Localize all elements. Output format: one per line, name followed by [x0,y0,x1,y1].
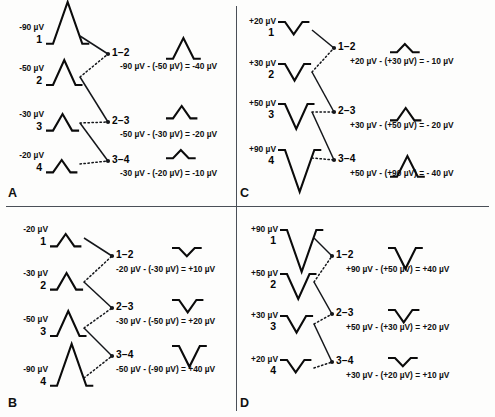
channel-amplitude-a-1: -90 µV [19,22,44,32]
derivation-equation-b-2: -30 µV - (-50 µV) = +20 µV [116,316,215,326]
derivation-waveform-b-2 [168,296,207,316]
derivation-label-d-3: 3–4 [336,355,354,366]
derivation-waveform-b-1 [168,244,206,260]
channel-waveform-c-1 [274,18,313,38]
derivation-label-a-1: 1–2 [112,47,130,58]
derivation-waveform-d-2 [384,306,423,326]
derivation-equation-a-2: -50 µV - (-30 µV) = -20 µV [120,129,217,139]
channel-amplitude-d-4: +20 µV [251,354,278,364]
connector-c-3 [309,109,337,163]
derivation-label-b-3: 3–4 [116,349,134,360]
derivation-label-d-1: 1–2 [336,249,354,260]
channel-amplitude-b-3: -50 µV [23,314,48,324]
channel-amplitude-b-1: -20 µV [23,224,48,234]
derivation-waveform-a-2 [162,102,201,122]
derivation-equation-b-1: -20 µV - (-30 µV) = +10 µV [116,264,215,274]
connector-d-1 [311,235,335,285]
connector-d-3 [311,321,335,371]
derivation-label-c-3: 3–4 [338,153,356,164]
channel-amplitude-b-2: -30 µV [23,268,48,278]
derivation-label-c-2: 2–3 [338,105,356,116]
channel-amplitude-d-2: +50 µV [251,268,278,278]
derivation-label-d-2: 2–3 [336,307,354,318]
derivation-waveform-d-1 [384,244,427,273]
derivation-label-c-1: 1–2 [338,41,356,52]
channel-waveform-b-1 [46,230,85,250]
derivation-waveform-d-3 [384,354,422,370]
connector-d-2 [311,279,335,327]
derivation-waveform-c-1 [386,40,424,56]
connector-b-3 [81,325,115,381]
channel-amplitude-c-4: +90 µV [249,144,276,154]
channel-waveform-d-4 [276,356,315,376]
derivation-waveform-c-2 [386,104,425,124]
derivation-equation-a-3: -30 µV - (-20 µV) = -10 µV [120,168,217,178]
connector-a-3 [77,120,111,167]
derivation-equation-d-3: +30 µV - (+20 µV) = +10 µV [346,370,449,380]
channel-amplitude-c-3: +50 µV [249,98,276,108]
channel-amplitude-c-1: +20 µV [249,16,276,26]
channel-amplitude-b-4: -90 µV [23,364,48,374]
connector-c-1 [309,27,337,75]
channel-amplitude-a-3: -30 µV [19,109,44,119]
channel-amplitude-d-3: +30 µV [251,310,278,320]
derivation-label-b-1: 1–2 [116,249,134,260]
derivation-label-a-2: 2–3 [112,115,130,126]
derivation-waveform-b-3 [168,342,211,371]
panel-d: +90 µV1+50 µV2+30 µV3+20 µV41–2+90 µV - … [238,208,474,414]
channel-amplitude-d-1: +90 µV [251,224,278,234]
panel-b: -20 µV1-30 µV2-50 µV3-90 µV41–2-20 µV - … [0,208,236,414]
panel-c: +20 µV1+30 µV2+50 µV3+90 µV41–2+20 µV - … [238,0,474,206]
channel-amplitude-a-4: -20 µV [19,150,44,160]
derivation-label-b-2: 2–3 [116,301,134,312]
connector-a-2 [77,74,111,126]
channel-waveform-a-4 [42,156,81,176]
panel-a: -90 µV1-50 µV2-30 µV3-20 µV41–2-90 µV - … [0,0,236,206]
channel-amplitude-c-2: +30 µV [249,58,276,68]
connector-b-1 [81,235,115,285]
channel-amplitude-a-2: -50 µV [19,63,44,73]
derivation-label-a-3: 3–4 [112,154,130,165]
derivation-waveform-a-3 [162,146,200,162]
connector-b-2 [81,279,115,331]
derivation-waveform-c-3 [386,152,429,181]
derivation-equation-c-1: +20 µV - (+30 µV) = - 10 µV [350,56,454,66]
figure-root: A B C D -90 µV1-50 µV2-30 µV3-20 µV41–2-… [0,0,495,417]
horizontal-divider [6,206,489,207]
connector-a-1 [77,33,111,80]
derivation-waveform-a-1 [162,34,205,63]
vertical-divider [236,6,237,411]
